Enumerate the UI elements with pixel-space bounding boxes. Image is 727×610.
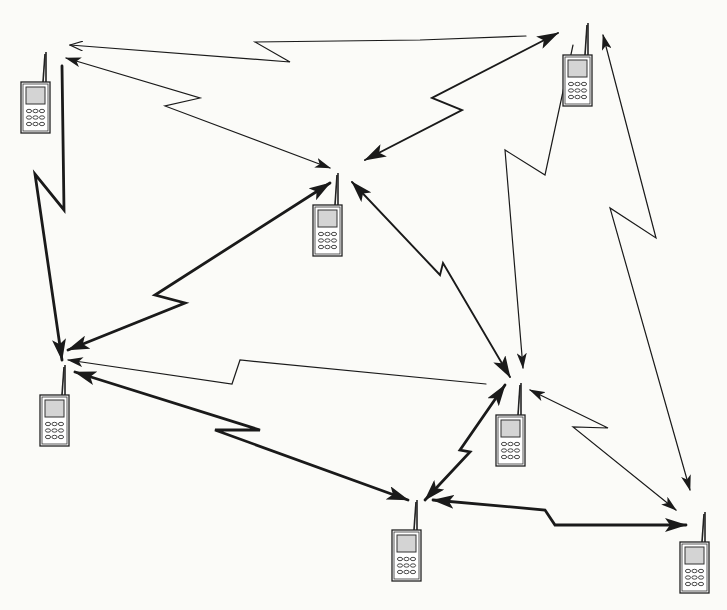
wireless-link-p2-p1 bbox=[70, 36, 526, 62]
keypad-key bbox=[45, 422, 50, 425]
keypad-key bbox=[568, 82, 573, 85]
keypad-key bbox=[33, 109, 38, 112]
keypad-key bbox=[45, 435, 50, 438]
keypad-key bbox=[325, 239, 330, 242]
keypad-key bbox=[501, 449, 506, 452]
phone-screen bbox=[501, 420, 520, 437]
phone-bottom bbox=[392, 500, 421, 581]
wireless-link-p5-p4 bbox=[68, 360, 486, 384]
phone-left bbox=[40, 365, 69, 446]
phone-screen bbox=[26, 87, 45, 104]
phone-top-right bbox=[563, 23, 592, 106]
network-diagram-canvas bbox=[0, 0, 727, 610]
keypad-key bbox=[581, 95, 586, 98]
keypad-key bbox=[575, 89, 580, 92]
keypad-key bbox=[52, 429, 57, 432]
keypad-key bbox=[331, 245, 336, 248]
keypad-key bbox=[514, 455, 519, 458]
keypad-key bbox=[575, 82, 580, 85]
wireless-link-p2-p4 bbox=[365, 33, 558, 160]
keypad-key bbox=[410, 570, 415, 573]
keypad-key bbox=[39, 122, 44, 125]
keypad-key bbox=[404, 570, 409, 573]
phone-screen bbox=[685, 547, 704, 564]
keypad-key bbox=[58, 429, 63, 432]
nodes-layer bbox=[21, 23, 709, 593]
keypad-key bbox=[397, 570, 402, 573]
keypad-key bbox=[26, 122, 31, 125]
keypad-key bbox=[331, 232, 336, 235]
keypad-key bbox=[58, 422, 63, 425]
links-layer bbox=[35, 33, 690, 525]
keypad-key bbox=[52, 435, 57, 438]
keypad-key bbox=[508, 442, 513, 445]
keypad-key bbox=[58, 435, 63, 438]
keypad-key bbox=[33, 116, 38, 119]
keypad-key bbox=[508, 455, 513, 458]
keypad-key bbox=[404, 564, 409, 567]
phone-screen bbox=[318, 210, 337, 227]
keypad-key bbox=[397, 557, 402, 560]
keypad-key bbox=[45, 429, 50, 432]
keypad-key bbox=[575, 95, 580, 98]
keypad-key bbox=[581, 89, 586, 92]
wireless-link-p5-p7 bbox=[530, 390, 676, 510]
wireless-link-p3-p5 bbox=[352, 182, 510, 377]
phone-screen bbox=[45, 400, 64, 417]
keypad-key bbox=[698, 569, 703, 572]
keypad-key bbox=[692, 576, 697, 579]
keypad-key bbox=[568, 95, 573, 98]
keypad-key bbox=[39, 109, 44, 112]
wireless-link-p3-p4 bbox=[68, 183, 330, 350]
wireless-link-p5-p6 bbox=[425, 385, 505, 500]
keypad-key bbox=[26, 116, 31, 119]
keypad-key bbox=[698, 582, 703, 585]
phone-screen bbox=[568, 60, 587, 77]
keypad-key bbox=[52, 422, 57, 425]
keypad-key bbox=[508, 449, 513, 452]
keypad-key bbox=[568, 89, 573, 92]
keypad-key bbox=[514, 449, 519, 452]
keypad-key bbox=[331, 239, 336, 242]
wireless-link-p1-p3 bbox=[66, 58, 330, 168]
keypad-key bbox=[404, 557, 409, 560]
wireless-link-p2-p7 bbox=[603, 35, 690, 490]
keypad-key bbox=[26, 109, 31, 112]
keypad-key bbox=[685, 582, 690, 585]
keypad-key bbox=[692, 582, 697, 585]
keypad-key bbox=[318, 232, 323, 235]
keypad-key bbox=[318, 239, 323, 242]
keypad-key bbox=[325, 245, 330, 248]
phone-top-left bbox=[21, 52, 50, 133]
wireless-link-p4-p6 bbox=[75, 372, 408, 500]
keypad-key bbox=[692, 569, 697, 572]
keypad-key bbox=[698, 576, 703, 579]
phone-screen bbox=[397, 535, 416, 552]
wireless-link-p6-p7 bbox=[433, 500, 686, 525]
network-diagram: Mobile ad hoc network bbox=[0, 0, 727, 610]
keypad-key bbox=[397, 564, 402, 567]
keypad-key bbox=[685, 576, 690, 579]
keypad-key bbox=[325, 232, 330, 235]
keypad-key bbox=[685, 569, 690, 572]
keypad-key bbox=[318, 245, 323, 248]
keypad-key bbox=[410, 564, 415, 567]
keypad-key bbox=[514, 442, 519, 445]
keypad-key bbox=[33, 122, 38, 125]
keypad-key bbox=[39, 116, 44, 119]
keypad-key bbox=[501, 455, 506, 458]
keypad-key bbox=[501, 442, 506, 445]
keypad-key bbox=[581, 82, 586, 85]
keypad-key bbox=[410, 557, 415, 560]
phone-center-right bbox=[496, 383, 525, 466]
